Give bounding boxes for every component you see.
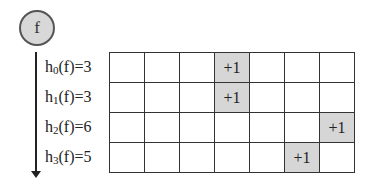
grid-cell (320, 143, 355, 173)
grid-cell: +1 (285, 143, 320, 173)
hash-label-2: h2(f)=6 (45, 112, 105, 142)
grid-cell: +1 (320, 113, 355, 143)
grid-row: +1 (110, 83, 355, 113)
grid-cell (215, 143, 250, 173)
grid-cell (110, 53, 145, 83)
grid-cell (110, 143, 145, 173)
grid-cell (145, 83, 180, 113)
grid-cell: +1 (215, 53, 250, 83)
grid-cell (250, 113, 285, 143)
grid-cell (250, 53, 285, 83)
node-label: f (34, 18, 40, 38)
grid-cell (285, 83, 320, 113)
grid-cell (145, 113, 180, 143)
grid-cell (110, 113, 145, 143)
grid-cell (250, 143, 285, 173)
hash-label-1: h1(f)=3 (45, 82, 105, 112)
grid-cell (145, 53, 180, 83)
flow-arrow-line (35, 52, 37, 172)
grid-cell (320, 53, 355, 83)
grid-cell (215, 113, 250, 143)
grid-cell (285, 53, 320, 83)
count-grid: +1+1+1+1 (109, 52, 355, 173)
grid-cell (285, 113, 320, 143)
grid-cell (180, 113, 215, 143)
grid-cell (320, 83, 355, 113)
hash-label-3: h3(f)=5 (45, 142, 105, 172)
grid-row: +1 (110, 113, 355, 143)
grid-cell (180, 143, 215, 173)
grid-row: +1 (110, 53, 355, 83)
grid-cell (180, 83, 215, 113)
grid-cell (250, 83, 285, 113)
arrow-down-icon (31, 171, 41, 178)
grid-cell: +1 (215, 83, 250, 113)
hash-label-0: h0(f)=3 (45, 52, 105, 82)
grid-cell (145, 143, 180, 173)
grid-cell (180, 53, 215, 83)
grid-row: +1 (110, 143, 355, 173)
grid-cell (110, 83, 145, 113)
input-node-f: f (19, 10, 55, 46)
